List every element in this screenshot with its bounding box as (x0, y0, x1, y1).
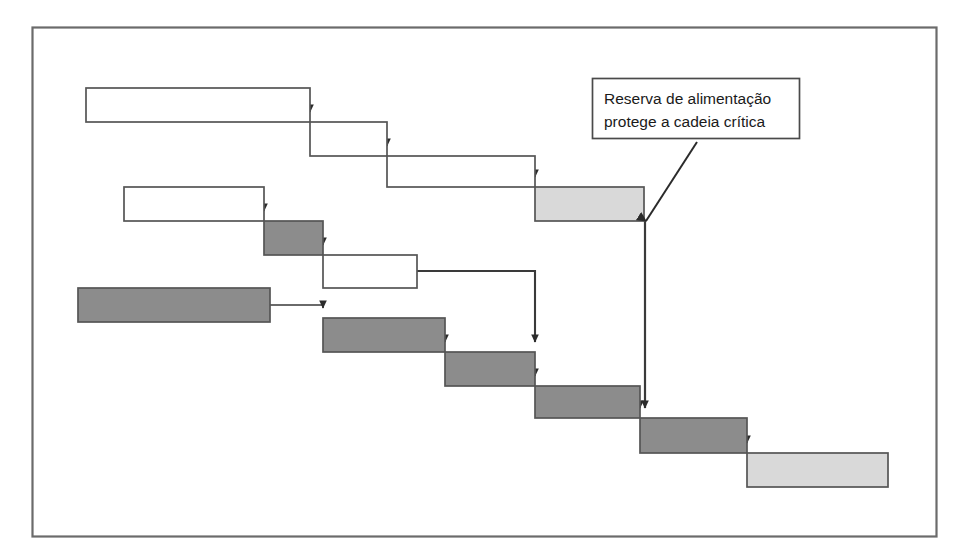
task-bar-t10[interactable] (535, 386, 640, 418)
project-buffer-bar[interactable] (747, 453, 888, 487)
task-bar-t3[interactable] (387, 156, 535, 187)
task-bar-t4[interactable] (124, 187, 264, 221)
task-bar-t8[interactable] (323, 318, 445, 352)
task-bar-t7[interactable] (78, 288, 270, 322)
task-bar-t6[interactable] (323, 255, 417, 288)
task-bar-t2[interactable] (310, 122, 387, 156)
gantt-svg: Reserva de alimentação protege a cadeia … (0, 0, 969, 559)
task-bar-t5[interactable] (264, 221, 323, 255)
task-bar-t1[interactable] (86, 88, 310, 122)
feeding-buffer-bar-1[interactable] (535, 187, 644, 221)
task-bar-t9[interactable] (445, 352, 535, 386)
callout-line-1: Reserva de alimentação (604, 90, 771, 107)
callout-line-2: protege a cadeia crítica (604, 113, 766, 130)
critical-chain-diagram: Reserva de alimentação protege a cadeia … (0, 0, 969, 559)
task-bar-t11[interactable] (640, 418, 747, 453)
